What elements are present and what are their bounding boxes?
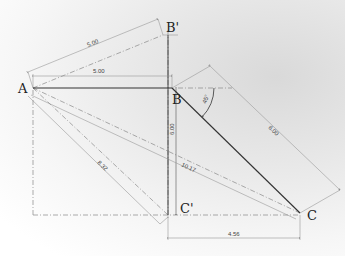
point-C-prime-label: C' [180, 201, 194, 216]
dim-AC-label: 10.17 [181, 161, 198, 173]
point-A-label: A [17, 81, 28, 96]
dim-AB-prime-label: 5.00 [86, 38, 100, 48]
dim-vertical-6-label: 6.00 [169, 123, 175, 135]
dim-AC-prime-label: 8.32 [96, 159, 109, 172]
construction-lines [33, 30, 300, 218]
dim-AB-label: 5.00 [93, 68, 105, 74]
main-lines [33, 35, 300, 215]
point-C-label: C [307, 208, 317, 223]
dim-BC-label: 6.00 [267, 124, 280, 137]
angle-label: 45° [201, 93, 210, 104]
point-B-prime-label: B' [166, 20, 179, 35]
point-B-label: B [172, 92, 182, 107]
segment-BC [172, 88, 300, 213]
dim-C-prime-C-label: 4.56 [228, 231, 240, 237]
geometry-drawing: A B' B C' C 5.00 5.00 6.00 6.00 10.17 8.… [0, 0, 345, 256]
diagram-canvas: A B' B C' C 5.00 5.00 6.00 6.00 10.17 8.… [0, 0, 345, 256]
